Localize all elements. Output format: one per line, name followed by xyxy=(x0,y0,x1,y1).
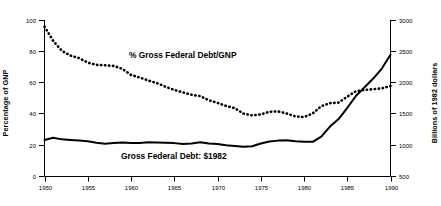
series-label-pct-gross-federal-debt-gnp: % Gross Federal Debt/GNP xyxy=(129,50,237,60)
y-tick-label-right-500: 500 xyxy=(399,174,410,180)
y-tick-label-right-2500: 2500 xyxy=(399,49,413,55)
y-axis-left-tick-labels: 100 80 60 40 20 0 xyxy=(26,18,37,180)
y-axis-left-ticks xyxy=(39,21,45,177)
x-axis-tick-labels: 195019551960196519701975198019851990 xyxy=(39,185,399,191)
y-tick-label-left-0: 0 xyxy=(33,174,37,180)
y-axis-right-title: Billions of 1982 dollars xyxy=(429,0,441,206)
y-axis-left-title: Percentage of GNP xyxy=(0,0,12,206)
series-line-pct-gross-federal-debt-gnp xyxy=(45,27,391,117)
chart-container: 100 80 60 40 20 0 3000 2500 2000 1500 10… xyxy=(0,0,441,206)
y-tick-label-left-20: 20 xyxy=(29,143,36,149)
series-label-gross-federal-debt-1982: Gross Federal Debt: $1982 xyxy=(121,151,227,161)
y-tick-label-left-40: 40 xyxy=(29,111,36,117)
x-tick-label-1960: 1960 xyxy=(125,185,139,191)
y-tick-label-left-100: 100 xyxy=(26,18,37,24)
x-tick-label-1975: 1975 xyxy=(255,185,269,191)
y-tick-label-right-1500: 1500 xyxy=(399,111,413,117)
y-tick-label-right-1000: 1000 xyxy=(399,143,413,149)
y-tick-label-right-3000: 3000 xyxy=(399,18,413,24)
x-tick-label-1965: 1965 xyxy=(168,185,182,191)
chart-plot-area: 100 80 60 40 20 0 3000 2500 2000 1500 10… xyxy=(0,0,441,206)
y-tick-label-left-60: 60 xyxy=(29,80,36,86)
x-axis-ticks xyxy=(46,177,392,182)
x-tick-label-1950: 1950 xyxy=(39,185,53,191)
y-tick-label-left-80: 80 xyxy=(29,49,36,55)
x-tick-label-1990: 1990 xyxy=(385,185,399,191)
x-tick-label-1970: 1970 xyxy=(212,185,226,191)
x-tick-label-1985: 1985 xyxy=(341,185,355,191)
y-tick-label-right-2000: 2000 xyxy=(399,80,413,86)
series-line-gross-federal-debt-1982-dollars xyxy=(45,55,391,147)
y-axis-right-tick-labels: 3000 2500 2000 1500 1000 500 xyxy=(399,18,413,180)
x-tick-label-1955: 1955 xyxy=(82,185,96,191)
y-axis-right-ticks xyxy=(391,21,397,177)
x-tick-label-1980: 1980 xyxy=(298,185,312,191)
